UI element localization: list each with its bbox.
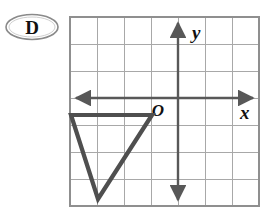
grid-background — [70, 17, 259, 206]
choice-letter-label: D — [25, 17, 39, 38]
figure-container: D — [0, 0, 271, 215]
origin-label: O — [152, 101, 164, 120]
y-axis-label: y — [190, 22, 201, 43]
coordinate-grid-figure: D — [0, 0, 271, 215]
x-axis-label: x — [239, 102, 250, 123]
answer-choice-badge: D — [6, 15, 58, 40]
